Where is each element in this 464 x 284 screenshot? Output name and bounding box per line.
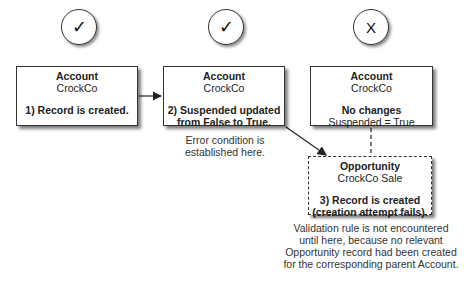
check-icon: ✓ xyxy=(61,9,97,45)
object-label: Opportunity xyxy=(309,160,431,172)
x-icon: X xyxy=(353,9,389,45)
opportunity-box-step3: Opportunity CrockCo Sale 3) Record is cr… xyxy=(308,156,432,215)
note-line: established here. xyxy=(175,146,275,158)
record-name: CrockCo xyxy=(164,82,284,94)
status-text: No changes xyxy=(311,104,432,116)
note-line: Error condition is xyxy=(175,134,275,146)
account-box-nochange: Account CrockCo No changes Suspended = T… xyxy=(310,66,433,126)
record-name: CrockCo xyxy=(17,82,137,94)
note-line: for the corresponding parent Account. xyxy=(278,258,464,270)
validation-note: Validation rule is not encountered until… xyxy=(278,222,464,270)
object-label: Account xyxy=(164,70,284,82)
field-value: Suspended = True xyxy=(311,116,432,128)
step-text: 3) Record is created xyxy=(309,194,431,206)
error-note: Error condition is established here. xyxy=(175,134,275,158)
object-label: Account xyxy=(311,70,432,82)
note-line: Validation rule is not encountered xyxy=(278,222,464,234)
object-label: Account xyxy=(17,70,137,82)
step-text: 2) Suspended updated xyxy=(164,104,284,116)
account-box-step2: Account CrockCo 2) Suspended updated fro… xyxy=(163,66,285,126)
note-line: until here, because no relevant xyxy=(278,234,464,246)
record-name: CrockCo xyxy=(311,82,432,94)
record-name: CrockCo Sale xyxy=(309,172,431,184)
note-line: Opportunity record had been created xyxy=(278,246,464,258)
account-box-step1: Account CrockCo 1) Record is created. xyxy=(16,66,138,126)
arrow-2-to-4 xyxy=(286,127,326,155)
step-text: (creation attempt fails). xyxy=(309,206,431,218)
check-icon: ✓ xyxy=(208,9,244,45)
step-text: 1) Record is created. xyxy=(17,104,137,116)
step-text: from False to True. xyxy=(164,116,284,128)
